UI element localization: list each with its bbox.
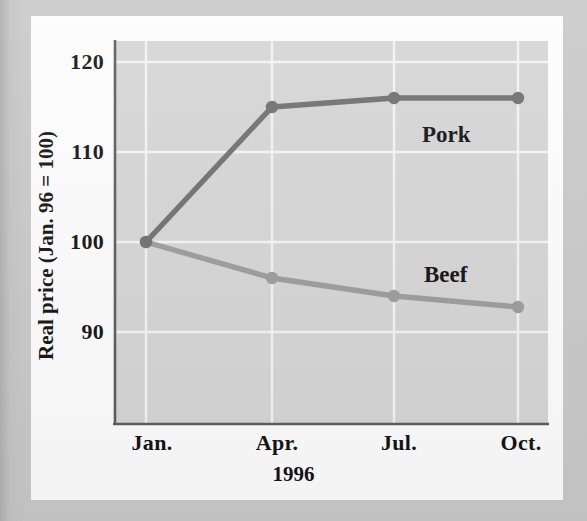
series-annotation-pork: Pork [422, 122, 471, 148]
y-tick-label-120: 120 [42, 49, 104, 75]
x-tick-label-apr: Apr. [222, 430, 332, 456]
pork-point-jan [140, 236, 152, 248]
series-annotation-beef: Beef [424, 262, 467, 288]
pork-point-apr [266, 101, 278, 113]
x-tick-label-jan: Jan. [97, 430, 207, 456]
beef-point-apr [266, 272, 278, 284]
x-axis-title: 1996 [0, 462, 587, 487]
beef-point-jul [388, 290, 400, 302]
x-tick-label-oct: Oct. [466, 430, 576, 456]
pork-point-jul [388, 92, 400, 104]
beef-point-oct [512, 301, 524, 313]
y-axis-title: Real price (Jan. 96 = 100) [34, 96, 59, 396]
figure-root: 120 110 100 90 Jan. Apr. Jul. Oct. Real … [0, 0, 587, 521]
x-tick-label-jul: Jul. [344, 430, 454, 456]
pork-point-oct [512, 92, 524, 104]
